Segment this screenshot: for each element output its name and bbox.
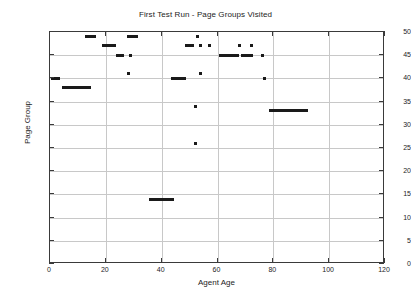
x-tick-label: 40 — [146, 266, 176, 273]
x-tick-mark — [384, 258, 385, 263]
data-point — [236, 54, 239, 57]
gridline-vertical — [106, 32, 107, 262]
data-point — [210, 263, 213, 264]
y-tick-mark — [49, 54, 54, 55]
data-point — [194, 142, 197, 145]
y-tick-mark — [49, 170, 54, 171]
y-tick-label: 35 — [367, 97, 411, 104]
x-tick-mark-top — [161, 31, 162, 36]
y-tick-label: 45 — [367, 51, 411, 58]
data-point — [261, 54, 264, 57]
data-point — [263, 263, 266, 264]
data-point — [208, 263, 211, 264]
x-tick-label: 0 — [34, 266, 64, 273]
data-point — [93, 35, 96, 38]
data-point — [305, 109, 308, 112]
data-point — [183, 77, 186, 80]
data-point — [57, 77, 60, 80]
x-tick-mark-top — [105, 31, 106, 36]
x-tick-label: 20 — [90, 266, 120, 273]
data-point — [129, 54, 132, 57]
y-tick-label: 10 — [367, 213, 411, 220]
y-tick-mark — [49, 240, 54, 241]
y-tick-mark — [49, 147, 54, 148]
x-tick-mark — [328, 258, 329, 263]
x-tick-mark — [217, 258, 218, 263]
data-point — [196, 35, 199, 38]
gridline-horizontal — [50, 194, 383, 195]
data-point — [199, 72, 202, 75]
data-point — [263, 77, 266, 80]
y-tick-label: 15 — [367, 190, 411, 197]
y-tick-mark — [49, 193, 54, 194]
x-tick-mark-top — [384, 31, 385, 36]
x-tick-label: 120 — [369, 266, 399, 273]
gridline-horizontal — [50, 125, 383, 126]
x-tick-mark-top — [217, 31, 218, 36]
data-point — [250, 44, 253, 47]
x-tick-label: 60 — [202, 266, 232, 273]
gridline-horizontal — [50, 78, 383, 79]
gridline-horizontal — [50, 102, 383, 103]
gridline-horizontal — [50, 218, 383, 219]
x-tick-mark — [161, 258, 162, 263]
data-point — [250, 54, 253, 57]
gridline-horizontal — [50, 241, 383, 242]
y-tick-label: 5 — [367, 236, 411, 243]
x-tick-label: 100 — [313, 266, 343, 273]
y-tick-mark — [49, 263, 54, 264]
scatter-chart-figure: First Test Run - Page Groups Visited 051… — [0, 0, 411, 298]
data-point — [171, 198, 174, 201]
gridline-vertical — [273, 32, 274, 262]
y-axis-title: Page Group — [23, 88, 32, 158]
data-point — [113, 44, 116, 47]
data-point — [194, 105, 197, 108]
gridline-horizontal — [50, 171, 383, 172]
data-point — [191, 44, 194, 47]
y-tick-mark — [49, 217, 54, 218]
data-point — [135, 35, 138, 38]
x-tick-mark-top — [328, 31, 329, 36]
x-tick-label: 80 — [257, 266, 287, 273]
y-tick-label: 30 — [367, 120, 411, 127]
data-point — [121, 54, 124, 57]
gridline-vertical — [218, 32, 219, 262]
y-tick-label: 40 — [367, 74, 411, 81]
data-point — [208, 44, 211, 47]
x-tick-mark — [49, 258, 50, 263]
gridline-horizontal — [50, 148, 383, 149]
x-tick-mark — [272, 258, 273, 263]
chart-title: First Test Run - Page Groups Visited — [0, 10, 411, 19]
x-tick-mark — [105, 258, 106, 263]
data-point — [238, 44, 241, 47]
y-tick-mark — [49, 101, 54, 102]
x-tick-mark-top — [272, 31, 273, 36]
gridline-horizontal — [50, 55, 383, 56]
y-tick-mark — [49, 124, 54, 125]
y-tick-label: 20 — [367, 167, 411, 174]
gridline-vertical — [162, 32, 163, 262]
y-tick-label: 25 — [367, 144, 411, 151]
gridline-vertical — [329, 32, 330, 262]
data-point — [127, 72, 130, 75]
x-axis-title: Agent Age — [49, 278, 384, 287]
y-tick-mark — [49, 77, 54, 78]
data-point — [88, 86, 91, 89]
x-tick-mark-top — [49, 31, 50, 36]
y-tick-label: 50 — [367, 28, 411, 35]
data-point — [199, 44, 202, 47]
plot-area — [49, 31, 384, 263]
